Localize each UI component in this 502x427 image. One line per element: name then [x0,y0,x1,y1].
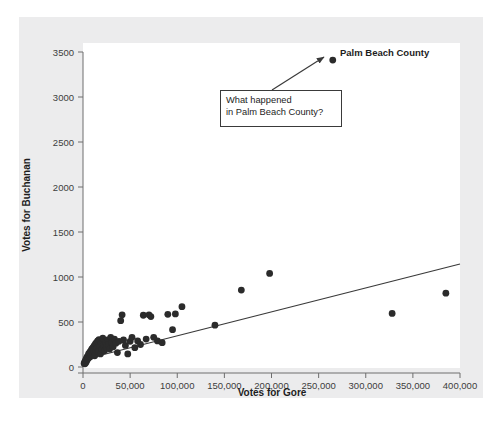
data-point [147,313,154,320]
chart-canvas [0,0,502,427]
x-axis-title: Votes for Gore [238,387,307,398]
data-point [164,311,171,318]
x-axis-ticks [83,373,460,378]
y-tick-label: 0 [42,362,74,373]
data-point [143,336,150,343]
callout-text: What happened in Palm Beach County? [226,94,344,118]
y-tick-label: 500 [42,317,74,328]
x-tick-label: 400,000 [443,380,477,391]
data-point [212,322,219,329]
y-tick-label: 2000 [42,182,74,193]
y-axis-ticks [78,52,83,367]
data-point [179,303,186,310]
data-point [129,334,136,341]
data-point [114,349,121,356]
data-point [329,57,336,64]
y-tick-label: 3500 [42,47,74,58]
data-point [389,310,396,317]
scatter-plot-figure: 0500100015002000250030003500050,000100,0… [0,0,502,427]
data-point [159,339,166,346]
x-tick-label: 100,000 [160,380,194,391]
x-tick-label: 350,000 [396,380,430,391]
y-tick-label: 2500 [42,137,74,148]
y-tick-label: 3000 [42,92,74,103]
data-point [442,290,449,297]
callout-arrow-line [272,57,324,90]
data-point [124,351,131,358]
x-tick-label: 0 [80,380,85,391]
data-point [238,287,245,294]
y-tick-label: 1500 [42,227,74,238]
palm-beach-county-label: Palm Beach County [340,47,429,58]
y-tick-label: 1000 [42,272,74,283]
data-point [266,270,273,277]
callout-arrow [272,57,324,90]
x-tick-label: 150,000 [207,380,241,391]
data-point [117,317,124,324]
data-point [169,326,176,333]
x-tick-label: 300,000 [349,380,383,391]
data-point [137,341,144,348]
data-point [172,311,179,318]
x-tick-label: 50,000 [116,380,145,391]
data-point [119,311,126,318]
y-axis-title: Votes for Buchanan [21,158,32,252]
